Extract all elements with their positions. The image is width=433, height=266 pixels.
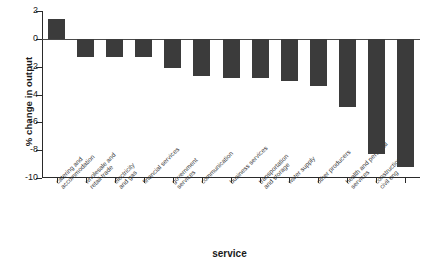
bar-chart: % change in output 20-2-4-6-8-10 caterin… — [0, 0, 433, 266]
y-tick-label: -4 — [30, 89, 38, 99]
y-axis-title: % change in output — [23, 22, 34, 182]
y-tick: -2 — [42, 67, 43, 68]
y-tick: -4 — [42, 95, 43, 96]
bar — [193, 39, 210, 77]
y-tick-label: 2 — [33, 5, 38, 15]
y-tick-label: -10 — [25, 172, 38, 182]
bar — [106, 39, 123, 57]
bar — [77, 39, 94, 57]
bar — [281, 39, 298, 81]
y-tick-label: -8 — [30, 144, 38, 154]
bar — [48, 19, 65, 38]
bar — [164, 39, 181, 68]
bar — [223, 39, 240, 78]
bar — [339, 39, 356, 107]
bar — [310, 39, 327, 86]
x-axis-category-labels: catering andaccommodationwholesale andre… — [42, 178, 433, 248]
y-tick: 2 — [42, 11, 43, 12]
y-tick: -8 — [42, 150, 43, 151]
bar — [368, 39, 385, 155]
y-tick-label: -2 — [30, 61, 38, 71]
y-tick: -6 — [42, 122, 43, 123]
x-axis-title: service — [0, 248, 433, 259]
y-tick-label: 0 — [33, 33, 38, 43]
bar — [135, 39, 152, 57]
bar — [252, 39, 269, 78]
y-tick-label: -6 — [30, 116, 38, 126]
